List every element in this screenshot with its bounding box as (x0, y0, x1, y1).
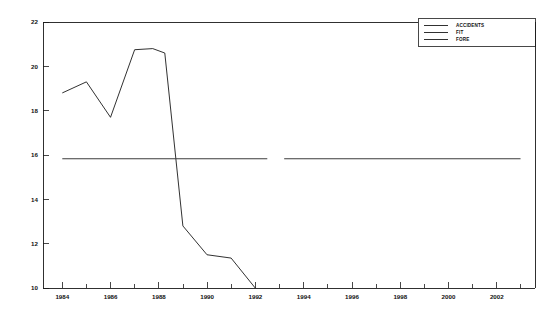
y-axis-labels: 22 20 18 16 14 12 10 (31, 18, 38, 291)
x-tick-label: 1984 (55, 293, 69, 300)
legend-label-fore: FORE (456, 37, 469, 42)
x-axis-labels: 1984 1986 1988 1990 1992 1994 1996 1998 … (55, 293, 504, 300)
chart-container: 22 20 18 16 14 12 10 (0, 0, 553, 320)
y-axis-ticks (43, 22, 49, 288)
y-tick-label: 14 (31, 196, 38, 203)
x-tick-label: 1990 (200, 293, 214, 300)
legend-label-fit: FIT (456, 30, 463, 35)
x-tick-label: 1994 (297, 293, 311, 300)
line-chart: 22 20 18 16 14 12 10 (0, 0, 553, 320)
chart-legend[interactable]: ACCIDENTS FIT FORE (418, 19, 535, 47)
y-tick-label: 16 (31, 151, 38, 158)
y-tick-label: 10 (31, 284, 38, 291)
series-line-accidents (62, 49, 255, 288)
plot-frame (43, 22, 535, 288)
x-tick-label: 1986 (104, 293, 118, 300)
x-tick-label: 2002 (490, 293, 504, 300)
y-tick-label: 22 (31, 18, 38, 25)
x-tick-label: 1996 (345, 293, 359, 300)
x-tick-label: 2000 (442, 293, 456, 300)
x-tick-label: 1998 (393, 293, 407, 300)
y-tick-label: 18 (31, 107, 38, 114)
data-series-group (62, 49, 520, 288)
x-tick-label: 1988 (152, 293, 166, 300)
y-tick-label: 20 (31, 63, 38, 70)
legend-label-accidents: ACCIDENTS (456, 23, 484, 28)
x-tick-label: 1992 (249, 293, 263, 300)
y-tick-label: 12 (31, 240, 38, 247)
